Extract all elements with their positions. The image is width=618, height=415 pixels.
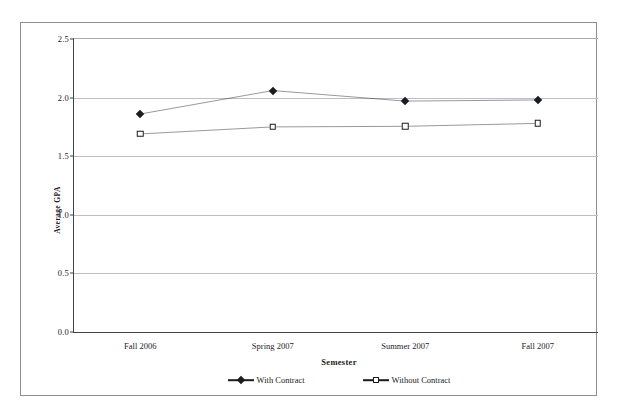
x-axis-tick-label: Fall 2007 [522,341,554,351]
chart-legend: With Contract Without Contract [73,375,598,385]
open-square-marker-icon [363,375,389,385]
y-axis-tick-label: 1.0 [58,210,69,220]
legend-entry-without-contract[interactable]: Without Contract [363,375,451,385]
y-axis-tick-label: 1.5 [58,151,69,161]
plot-wrapper: Average GPA 0.00.51.01.52.02.5Fall 2006S… [21,23,598,397]
series-line [140,123,538,134]
x-axis-tick-label: Fall 2006 [124,341,156,351]
data-point-marker [402,123,409,130]
filled-diamond-marker-icon [228,375,254,385]
x-axis-tick-label: Summer 2007 [381,341,429,351]
plot-area: 0.00.51.01.52.02.5Fall 2006Spring 2007Su… [73,38,598,333]
y-axis-tick-label: 0.0 [58,327,69,337]
y-axis-tick-label: 2.0 [58,93,69,103]
series-line [140,91,538,114]
series-lines [74,39,598,332]
figure-frame: Average GPA 0.00.51.01.52.02.5Fall 2006S… [20,22,597,396]
legend-label: With Contract [257,375,305,385]
x-axis-title: Semester [73,357,598,367]
y-axis-tick-label: 0.5 [58,268,69,278]
data-point-marker [137,131,144,138]
data-point-marker [270,124,277,131]
legend-label: Without Contract [392,375,451,385]
y-axis-tick-label: 2.5 [58,34,69,44]
x-axis-tick-label: Spring 2007 [252,341,294,351]
legend-entry-with-contract[interactable]: With Contract [228,375,305,385]
data-point-marker [535,120,542,127]
